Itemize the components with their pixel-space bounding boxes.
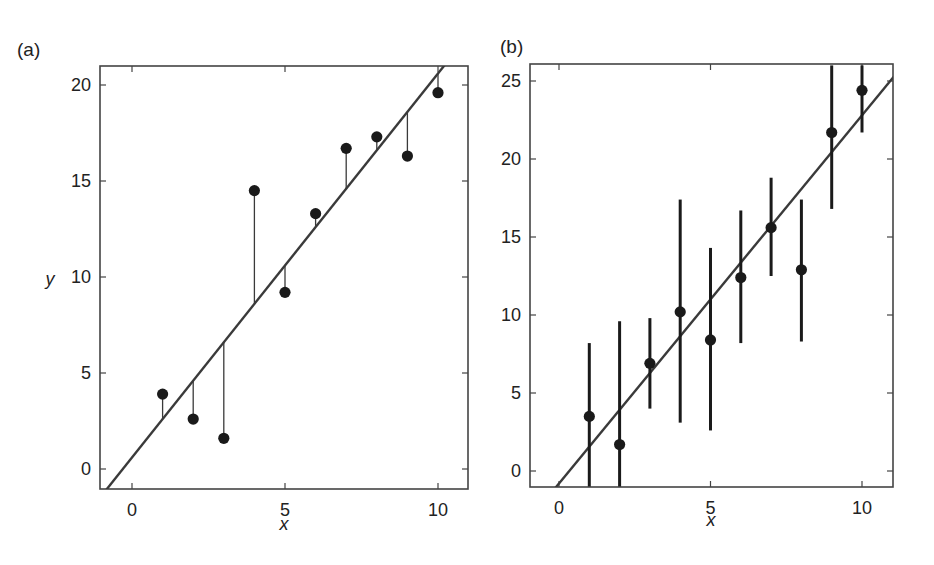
plot-frame — [100, 66, 468, 489]
panel-label: (b) — [500, 36, 523, 57]
data-point — [644, 358, 655, 369]
y-tick-label: 20 — [501, 149, 521, 169]
data-point — [402, 150, 413, 161]
y-tick-label: 0 — [511, 461, 521, 481]
y-tick-label: 5 — [511, 383, 521, 403]
data-point — [157, 389, 168, 400]
data-point — [856, 85, 867, 96]
data-point — [675, 306, 686, 317]
x-tick-label: 0 — [554, 498, 564, 518]
x-tick-label: 0 — [127, 500, 137, 520]
panel-label: (a) — [17, 39, 40, 60]
two-panel-regression-figure: 051005101520(a)xy 05100510152025(b)x — [0, 0, 934, 565]
y-tick-label: 10 — [71, 267, 91, 287]
y-tick-label: 0 — [81, 459, 91, 479]
panel-b-error-bar-plot: 05100510152025(b)x — [498, 36, 922, 557]
data-point — [614, 439, 625, 450]
y-tick-label: 5 — [81, 363, 91, 383]
y-axis-label: y — [44, 269, 56, 289]
data-point — [249, 185, 260, 196]
data-point — [796, 264, 807, 275]
data-point — [705, 334, 716, 345]
x-tick-label: 10 — [852, 498, 872, 518]
data-point — [341, 143, 352, 154]
data-point — [371, 131, 382, 142]
panel-a-residuals-plot: 051005101520(a)xy — [17, 0, 499, 534]
y-tick-label: 15 — [71, 171, 91, 191]
data-point — [432, 87, 443, 98]
y-tick-label: 20 — [71, 75, 91, 95]
data-point — [584, 411, 595, 422]
y-tick-label: 10 — [501, 305, 521, 325]
data-point — [766, 222, 777, 233]
x-tick-label: 10 — [428, 500, 448, 520]
x-axis-label: x — [706, 510, 717, 530]
data-point — [188, 413, 199, 424]
data-point — [735, 272, 746, 283]
y-tick-label: 25 — [501, 71, 521, 91]
figure: 051005101520(a)xy 05100510152025(b)x — [0, 0, 934, 565]
data-point — [279, 287, 290, 298]
data-point — [310, 208, 321, 219]
y-tick-label: 15 — [501, 227, 521, 247]
data-point — [218, 433, 229, 444]
x-axis-label: x — [279, 514, 290, 534]
data-point — [826, 127, 837, 138]
